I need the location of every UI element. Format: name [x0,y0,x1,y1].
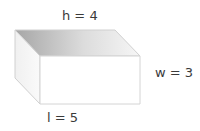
width-label: w = 3 [155,66,193,79]
length-label: l = 5 [47,111,78,124]
front-face [40,56,140,104]
height-label: h = 4 [62,9,98,22]
rectangular-prism-diagram: h = 4 w = 3 l = 5 [0,0,200,131]
